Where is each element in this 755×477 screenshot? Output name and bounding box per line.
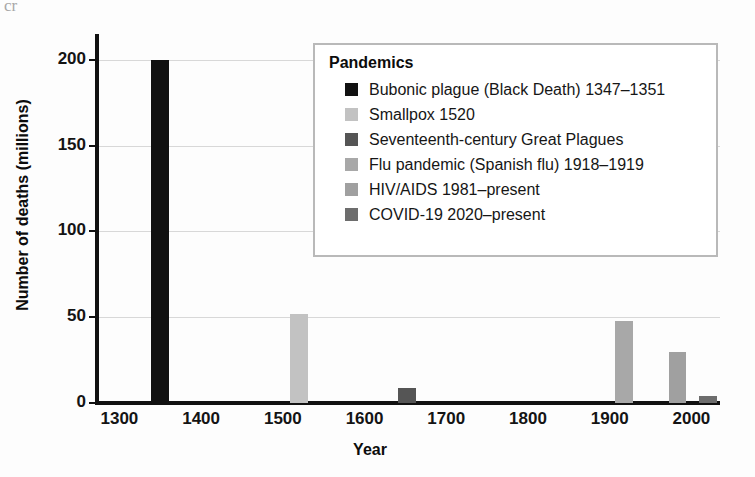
- legend-swatch-icon-4: [345, 158, 358, 171]
- bar-4: [615, 321, 633, 403]
- bar-6: [699, 396, 717, 403]
- y-tick-mark-100: [89, 230, 95, 232]
- legend-label-4: Flu pandemic (Spanish flu) 1918–1919: [369, 156, 644, 174]
- legend-item-6: COVID-19 2020–present: [329, 202, 716, 227]
- y-tick-label-150: 150: [40, 135, 86, 155]
- y-tick-label-200: 200: [40, 49, 86, 69]
- y-tick-label-0: 0: [40, 392, 86, 412]
- legend-label-6: COVID-19 2020–present: [369, 206, 545, 224]
- x-axis-title: Year: [290, 441, 450, 459]
- x-tick-label-1500: 1500: [248, 409, 318, 429]
- legend-label-2: Smallpox 1520: [369, 106, 475, 124]
- legend-label-5: HIV/AIDS 1981–present: [369, 181, 540, 199]
- legend-swatch-icon-5: [345, 183, 358, 196]
- y-tick-mark-150: [89, 145, 95, 147]
- x-tick-label-1300: 1300: [84, 409, 154, 429]
- legend-item-1: Bubonic plague (Black Death) 1347–1351: [329, 77, 716, 102]
- legend-swatch-icon-1: [345, 83, 358, 96]
- legend-title: Pandemics: [329, 54, 716, 72]
- legend-box: Pandemics Bubonic plague (Black Death) 1…: [313, 43, 718, 257]
- legend-item-4: Flu pandemic (Spanish flu) 1918–1919: [329, 152, 716, 177]
- legend-item-2: Smallpox 1520: [329, 102, 716, 127]
- legend-label-3: Seventeenth-century Great Plagues: [369, 131, 623, 149]
- bar-2: [290, 314, 308, 403]
- pandemic-deaths-bar-chart: cr 050100150200 130014001500160017001800…: [0, 0, 755, 477]
- y-tick-label-50: 50: [40, 306, 86, 326]
- legend-items-group: Bubonic plague (Black Death) 1347–1351Sm…: [329, 77, 716, 227]
- x-tick-label-1800: 1800: [493, 409, 563, 429]
- y-tick-label-100: 100: [40, 220, 86, 240]
- scan-artifact-text: cr: [4, 0, 17, 16]
- legend-swatch-icon-2: [345, 108, 358, 121]
- x-tick-label-2000: 2000: [656, 409, 726, 429]
- bar-1: [151, 60, 169, 403]
- bar-3: [398, 388, 416, 403]
- y-tick-mark-50: [89, 316, 95, 318]
- legend-swatch-icon-3: [345, 133, 358, 146]
- legend-item-3: Seventeenth-century Great Plagues: [329, 127, 716, 152]
- y-tick-mark-0: [89, 402, 95, 404]
- x-tick-label-1900: 1900: [575, 409, 645, 429]
- legend-swatch-icon-6: [345, 208, 358, 221]
- x-tick-label-1600: 1600: [330, 409, 400, 429]
- x-tick-label-1400: 1400: [166, 409, 236, 429]
- legend-label-1: Bubonic plague (Black Death) 1347–1351: [369, 81, 665, 99]
- bar-5: [669, 352, 687, 403]
- y-axis-title: Number of deaths (millions): [14, 40, 32, 370]
- x-tick-label-1700: 1700: [411, 409, 481, 429]
- y-tick-mark-200: [89, 59, 95, 61]
- legend-item-5: HIV/AIDS 1981–present: [329, 177, 716, 202]
